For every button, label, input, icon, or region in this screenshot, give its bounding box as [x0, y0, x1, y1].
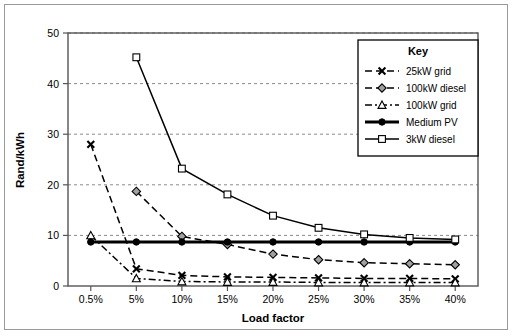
y-axis-title: Rand/kWh [14, 132, 26, 188]
x-tick-label: 35% [399, 293, 420, 305]
data-point-marker [88, 239, 94, 245]
data-point-marker [270, 212, 277, 219]
x-tick-label: 10% [171, 293, 192, 305]
data-point-marker [315, 224, 322, 231]
x-axis-title: Load factor [242, 312, 305, 324]
x-tick-label: 30% [354, 293, 375, 305]
data-point-marker [379, 119, 385, 125]
x-tick-label: 5% [129, 293, 144, 305]
data-point-marker [224, 191, 231, 198]
x-tick-label: 0.5% [79, 293, 103, 305]
series-line [136, 191, 455, 264]
legend-title: Key [408, 45, 429, 57]
data-point-marker [361, 231, 368, 238]
x-axis-ticks: 0.5%5%10%15%20%25%30%35%40% [79, 286, 466, 305]
chart-figure: 01020304050 0.5%5%10%15%20%25%30%35%40% … [0, 0, 514, 336]
y-axis-ticks: 01020304050 [47, 27, 68, 292]
data-point-marker [452, 236, 459, 243]
data-point-marker [360, 259, 368, 267]
series-medium-pv [88, 239, 459, 245]
legend-item-label: 25kW grid [406, 66, 451, 77]
legend-item-label: Medium PV [406, 117, 458, 128]
data-point-marker [405, 260, 413, 268]
legend-item-label: 100kW grid [406, 100, 457, 111]
data-point-marker [406, 235, 413, 242]
y-tick-label: 30 [47, 128, 59, 140]
y-tick-label: 0 [53, 280, 59, 292]
x-tick-label: 25% [308, 293, 329, 305]
x-tick-label: 40% [445, 293, 466, 305]
legend-item-label: 3kW diesel [406, 134, 455, 145]
y-tick-label: 10 [47, 229, 59, 241]
chart-canvas: 01020304050 0.5%5%10%15%20%25%30%35%40% … [0, 0, 514, 336]
x-tick-label: 20% [262, 293, 283, 305]
data-point-marker [451, 261, 459, 269]
data-point-marker [133, 54, 140, 61]
data-point-marker [133, 239, 139, 245]
data-point-marker [87, 141, 94, 148]
data-point-marker [314, 255, 322, 263]
series-25kw-grid [87, 141, 458, 282]
legend-item-label: 100kW diesel [406, 83, 466, 94]
data-point-marker [179, 239, 185, 245]
y-tick-label: 50 [47, 27, 59, 39]
data-point-marker [178, 165, 185, 172]
chart-legend[interactable]: Key25kW grid100kW diesel100kW gridMedium… [358, 40, 478, 156]
data-point-marker [361, 239, 367, 245]
series-100kw-diesel [132, 187, 459, 269]
data-point-marker [379, 136, 386, 143]
data-point-marker [270, 239, 276, 245]
data-point-marker [224, 239, 230, 245]
data-point-marker [315, 239, 321, 245]
y-tick-label: 40 [47, 78, 59, 90]
y-tick-label: 20 [47, 179, 59, 191]
data-point-marker [269, 250, 277, 258]
x-tick-label: 15% [217, 293, 238, 305]
